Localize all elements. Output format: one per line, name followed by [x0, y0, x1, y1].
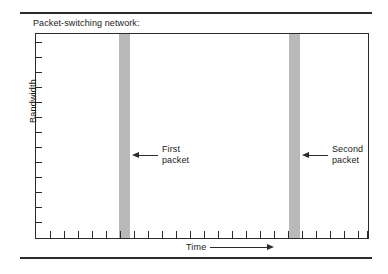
- plot-area: First packet Second packet: [35, 33, 369, 239]
- x-tick: [204, 231, 205, 238]
- figure-caption: Packet-switching network:: [33, 18, 140, 28]
- x-tick: [162, 231, 163, 238]
- x-tick: [232, 231, 233, 238]
- x-tick: [288, 231, 289, 238]
- x-tick: [92, 231, 93, 238]
- y-tick: [36, 147, 42, 148]
- x-tick: [246, 231, 247, 238]
- top-rule: [20, 12, 372, 14]
- x-tick: [358, 231, 359, 238]
- first-packet-bar: [119, 34, 130, 238]
- y-tick: [36, 207, 42, 208]
- x-tick: [316, 231, 317, 238]
- first-packet-label: First packet: [162, 144, 189, 166]
- first-packet-label-line2: packet: [162, 155, 189, 165]
- y-axis-label: Bandwidth: [28, 66, 38, 136]
- first-packet-label-line1: First: [162, 144, 180, 154]
- x-tick: [78, 231, 79, 238]
- x-tick: [330, 231, 331, 238]
- packet-switching-figure: Packet-switching network:: [0, 0, 388, 274]
- y-tick: [36, 192, 42, 193]
- x-tick: [274, 231, 275, 238]
- x-axis-label-group: Time: [186, 242, 274, 252]
- second-packet-label-line1: Second: [332, 144, 363, 154]
- y-tick: [36, 177, 42, 178]
- y-tick: [36, 162, 42, 163]
- x-tick: [367, 231, 368, 238]
- x-tick: [148, 231, 149, 238]
- second-packet-bar: [289, 34, 300, 238]
- second-packet-label: Second packet: [332, 144, 363, 166]
- second-packet-label-line2: packet: [332, 155, 359, 165]
- x-axis-label: Time: [186, 242, 206, 252]
- second-packet-annotation: Second packet: [302, 144, 363, 166]
- x-tick: [106, 231, 107, 238]
- x-tick: [344, 231, 345, 238]
- x-tick: [134, 231, 135, 238]
- arrow-left-icon: [302, 152, 328, 159]
- arrow-right-icon: [210, 244, 274, 251]
- y-tick: [36, 42, 42, 43]
- arrow-left-icon: [132, 152, 158, 159]
- x-tick: [64, 231, 65, 238]
- x-tick: [190, 231, 191, 238]
- x-tick: [176, 231, 177, 238]
- x-tick: [260, 231, 261, 238]
- y-tick: [36, 222, 42, 223]
- x-tick: [218, 231, 219, 238]
- x-tick: [120, 231, 121, 238]
- first-packet-annotation: First packet: [132, 144, 189, 166]
- y-tick: [36, 57, 42, 58]
- x-tick: [50, 231, 51, 238]
- x-tick: [302, 231, 303, 238]
- bottom-rule: [20, 257, 372, 259]
